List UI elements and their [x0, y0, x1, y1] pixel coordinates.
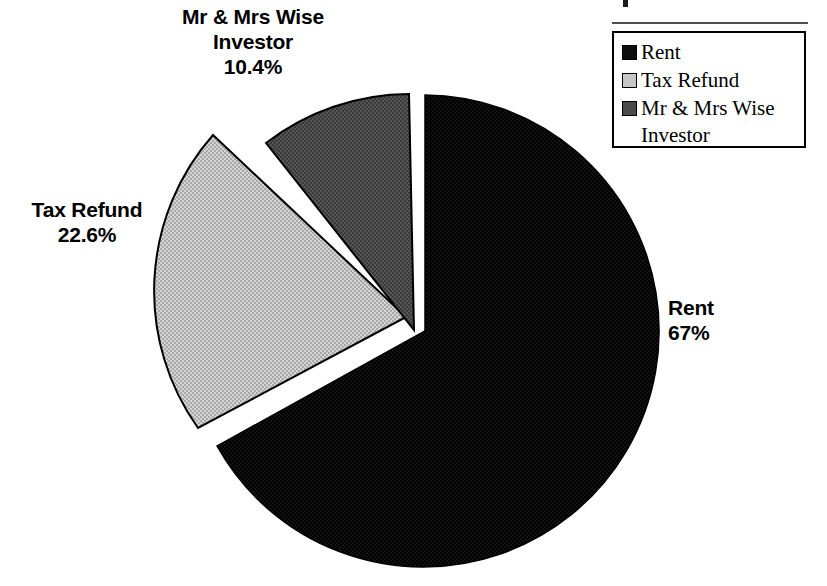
scan-artifact-dot — [623, 0, 628, 7]
legend-item-tax-refund[interactable]: Tax Refund — [622, 67, 798, 94]
chart-legend: Rent Tax Refund Mr & Mrs Wise Investor — [612, 31, 806, 148]
pie-label-rent: Rent 67% — [668, 295, 778, 345]
pie-label-tax-refund: Tax Refund 22.6% — [2, 197, 172, 247]
legend-label-tax-refund: Tax Refund — [641, 67, 739, 94]
pie-chart-page: Mr & Mrs Wise Investor 10.4% Tax Refund … — [0, 0, 827, 586]
legend-item-rent[interactable]: Rent — [622, 39, 798, 66]
legend-item-investor[interactable]: Mr & Mrs Wise Investor — [622, 95, 798, 149]
legend-swatch-rent — [622, 45, 637, 60]
legend-label-rent: Rent — [641, 39, 681, 66]
legend-swatch-tax-refund — [622, 73, 637, 88]
legend-label-investor: Mr & Mrs Wise Investor — [641, 95, 775, 149]
legend-swatch-investor — [622, 101, 637, 116]
scan-artifact-line — [612, 22, 808, 24]
pie-label-investor: Mr & Mrs Wise Investor 10.4% — [128, 4, 378, 79]
